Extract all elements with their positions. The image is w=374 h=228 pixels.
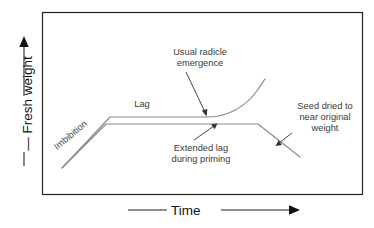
x-axis-arrow-head (289, 205, 300, 214)
annotation-usual-radicle-emergence: Usual radicle emergence (152, 47, 248, 69)
seed-priming-fresh-weight-diagram: — Fresh weight Time Usual radicle emerge… (0, 0, 374, 228)
y-axis-label: — Fresh weight (20, 34, 35, 174)
x-axis-label: Time (171, 203, 201, 218)
leader-extended-lag (194, 124, 218, 141)
annotation-seed-dried-near-original-weight: Seed dried to near original weight (282, 101, 368, 135)
x-axis-rule (128, 205, 300, 214)
annotation-lag: Lag (125, 99, 159, 110)
leader-usual-radicle (186, 72, 207, 117)
annotation-extended-lag-during-priming: Extended lag during priming (155, 143, 247, 165)
